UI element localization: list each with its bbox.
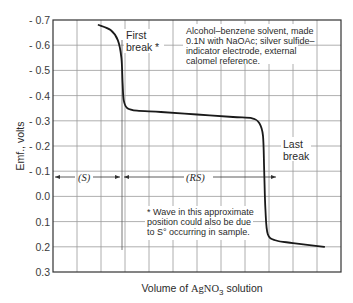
y-tick-label: 0.3 bbox=[35, 266, 50, 278]
footnote-line: position could also be due bbox=[147, 217, 251, 227]
y-tick-label: 0.2 bbox=[35, 241, 50, 253]
first-break-asterisk: * bbox=[155, 41, 159, 53]
footnote-line: * Wave in this approximate bbox=[147, 207, 254, 217]
note-line: calomel reference. bbox=[186, 56, 260, 66]
note-line: indicator electrode, external bbox=[186, 46, 297, 56]
y-tick-label: - 0.4 bbox=[29, 90, 50, 102]
y-tick-label: - 0.5 bbox=[29, 64, 50, 76]
y-axis-label: Emf., volts bbox=[14, 121, 26, 170]
s-region-arrow: (S) bbox=[55, 172, 120, 184]
x-axis-label: Volume of AgNO3 solution bbox=[141, 282, 262, 297]
note-line: Alcohol–benzene solvent, made bbox=[186, 26, 314, 36]
y-tick-label: - 0.6 bbox=[29, 39, 50, 51]
rs-region-label: (RS) bbox=[186, 172, 205, 184]
note-line: 0.1N with NaOAc; silver sulfide– bbox=[186, 36, 315, 46]
footnote-line: to S° occurring in sample. bbox=[147, 227, 250, 237]
first-break-label: First bbox=[126, 29, 146, 41]
first-break-label-2: break bbox=[126, 41, 153, 53]
titration-chart: - 0.7- 0.6- 0.5- 0.4- 0.3- 0.2- 0.10.00.… bbox=[0, 0, 353, 303]
last-break-label-2: break bbox=[283, 150, 310, 162]
y-tick-label: - 0.2 bbox=[29, 140, 50, 152]
y-tick-label: - 0.3 bbox=[29, 115, 50, 127]
rs-region-arrow: (RS) bbox=[124, 172, 276, 184]
y-tick-label: 0.1 bbox=[35, 216, 50, 228]
y-axis-ticks: - 0.7- 0.6- 0.5- 0.4- 0.3- 0.2- 0.10.00.… bbox=[29, 14, 50, 278]
footnote: * Wave in this approximateposition could… bbox=[147, 207, 254, 237]
y-tick-label: - 0.1 bbox=[29, 165, 50, 177]
last-break-label: Last bbox=[283, 138, 303, 150]
y-tick-label: 0.0 bbox=[35, 190, 50, 202]
s-region-label: (S) bbox=[78, 172, 91, 184]
y-tick-label: - 0.7 bbox=[29, 14, 50, 26]
